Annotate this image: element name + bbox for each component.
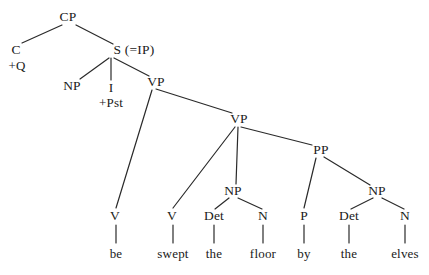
node-pp: PP (313, 143, 328, 157)
cp-to-c (22, 25, 62, 43)
node-det-prep-object: Det (339, 209, 359, 223)
node-vp-lower: VP (230, 112, 248, 126)
word-be: be (110, 247, 123, 260)
node-v-main: V (167, 209, 177, 223)
node-i-feature: +Pst (99, 96, 123, 109)
node-s: S (=IP) (114, 43, 155, 57)
word-elves: elves (391, 247, 419, 260)
node-c-feature: +Q (8, 59, 25, 72)
node-p: P (300, 209, 308, 223)
node-np-subject: NP (63, 79, 81, 93)
cp-to-s (76, 25, 113, 44)
node-det-object: Det (204, 209, 224, 223)
branch-lines (22, 25, 404, 209)
word-by: by (297, 247, 310, 260)
word-swept: swept (157, 247, 188, 260)
s-to-np-subject (80, 58, 109, 79)
vp-lower-to-np-obj (236, 127, 238, 184)
word-floor: floor (250, 247, 276, 260)
node-np-prep-object: NP (368, 184, 386, 198)
node-i: I (109, 81, 114, 95)
s-to-vp-upper (114, 58, 149, 76)
tree-edges-layer (0, 0, 429, 275)
pp-to-p (304, 158, 316, 208)
node-n-prep-object: N (400, 209, 410, 223)
node-c: C (11, 43, 20, 57)
node-n-object: N (258, 209, 268, 223)
vp-upper-to-vp-lower (156, 89, 232, 113)
word-the-prep-object: the (341, 247, 357, 260)
terminal-stem-lines (116, 225, 405, 243)
word-the-object: the (206, 247, 222, 260)
node-v-aux: V (110, 209, 120, 223)
pp-to-np-pobj (324, 157, 370, 185)
node-cp: CP (60, 10, 77, 24)
vp-lower-to-pp (241, 127, 312, 145)
syntax-tree-figure: CP C +Q S (=IP) NP I +Pst VP VP PP NP NP… (0, 0, 429, 275)
node-np-object: NP (224, 184, 242, 198)
node-vp-upper: VP (147, 75, 165, 89)
